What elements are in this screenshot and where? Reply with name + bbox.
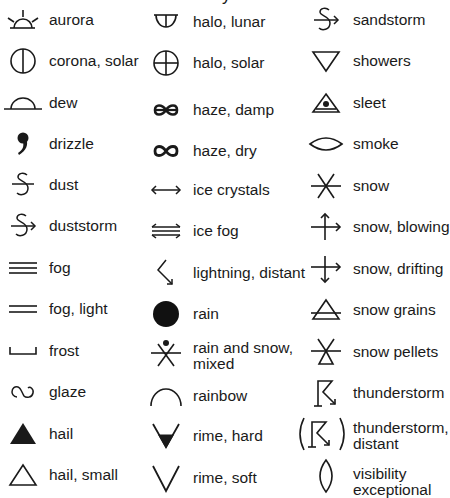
haze-dry-icon <box>146 131 186 171</box>
ice-fog-icon <box>146 211 186 251</box>
legend-label: lightning, distant <box>193 265 305 281</box>
halo-solar-icon <box>146 43 186 83</box>
sleet-icon <box>306 83 346 123</box>
legend-label: hail <box>49 426 73 442</box>
legend-label: drizzle <box>49 136 94 152</box>
legend-label: sandstorm <box>353 12 425 28</box>
thunderstorm-distant-icon <box>296 414 348 454</box>
legend-label: rime, hard <box>193 428 263 444</box>
legend-label: snow grains <box>353 302 436 318</box>
legend-label: dew <box>49 95 77 111</box>
snow-icon <box>306 166 346 206</box>
snow-pellets-icon <box>306 332 346 372</box>
halo-lunar-icon <box>146 1 186 41</box>
legend-label: snow pellets <box>353 344 438 360</box>
ice-crystals-icon <box>146 170 186 210</box>
visibility-exceptional-icon <box>306 456 346 496</box>
dew-icon <box>3 83 43 123</box>
legend-label: thunderstorm <box>353 385 444 401</box>
thunderstorm-icon <box>306 373 346 413</box>
rime-soft-icon <box>146 458 186 498</box>
legend-label: fog <box>49 260 71 276</box>
snow-drifting-icon <box>306 249 346 289</box>
legend-label: sleet <box>353 95 386 111</box>
hail-icon <box>3 414 43 454</box>
snow-blowing-icon <box>306 207 346 247</box>
legend-label: rain and snow, mixed <box>193 340 293 372</box>
smoke-icon <box>306 124 346 164</box>
legend-label: glaze <box>49 384 86 400</box>
aurora-icon <box>3 0 43 40</box>
legend-label: ice fog <box>193 223 239 239</box>
fog-icon <box>3 248 43 288</box>
legend-label: haze, dry <box>193 143 257 159</box>
frost-icon <box>3 331 43 371</box>
title-fragment: y <box>222 0 231 6</box>
legend-label: haze, damp <box>193 102 274 118</box>
legend-label: smoke <box>353 136 399 152</box>
rainbow-icon <box>146 376 186 416</box>
drizzle-icon <box>3 124 43 164</box>
legend-label: fog, light <box>49 301 108 317</box>
legend-label: snow, drifting <box>353 261 443 277</box>
legend-label: showers <box>353 53 411 69</box>
legend-label: halo, lunar <box>193 14 265 30</box>
legend-label: duststorm <box>49 218 117 234</box>
legend-label: aurora <box>49 12 94 28</box>
legend-label: snow, blowing <box>353 219 450 235</box>
legend-label: hail, small <box>49 467 118 483</box>
legend-label: ice crystals <box>193 182 270 198</box>
duststorm-icon <box>3 206 43 246</box>
legend-label: rain <box>193 306 219 322</box>
legend-label: snow <box>353 178 389 194</box>
rain-icon <box>146 294 186 334</box>
haze-damp-icon <box>146 90 186 130</box>
glaze-icon <box>3 372 43 412</box>
lightning-distant-icon <box>146 253 186 293</box>
showers-icon <box>306 41 346 81</box>
legend-label: rainbow <box>193 388 247 404</box>
dust-icon <box>3 165 43 205</box>
legend-label: thunderstorm, distant <box>353 420 449 452</box>
hail-small-icon <box>3 455 43 495</box>
rime-hard-icon <box>146 416 186 456</box>
sandstorm-icon <box>306 0 346 40</box>
legend-label: visibility exceptional <box>353 466 431 498</box>
legend-label: dust <box>49 177 78 193</box>
snow-grains-icon <box>306 290 346 330</box>
rain-and-snow-mixed-icon <box>146 334 186 374</box>
fog-light-icon <box>3 289 43 329</box>
corona-solar-icon <box>3 41 43 81</box>
legend-label: corona, solar <box>49 53 139 69</box>
legend-label: rime, soft <box>193 470 257 486</box>
legend-label: frost <box>49 343 79 359</box>
legend-label: halo, solar <box>193 55 265 71</box>
